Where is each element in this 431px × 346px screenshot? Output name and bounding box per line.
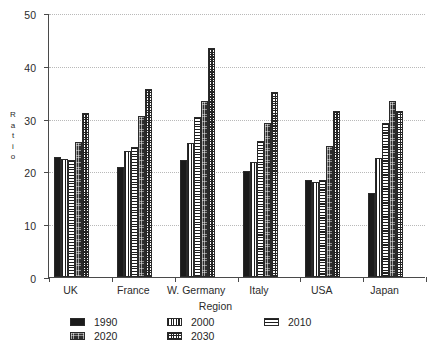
- x-axis-group-label-france: France: [117, 284, 150, 296]
- x-axis-tick: [112, 277, 113, 282]
- y-axis-title: R a t i o: [6, 110, 20, 163]
- plot-inner: 01020304050: [49, 14, 425, 277]
- legend-label: 2020: [94, 330, 117, 342]
- plot-area: 01020304050: [48, 14, 425, 278]
- bar-france-2000: [124, 151, 131, 277]
- legend-item-2030[interactable]: 2030: [167, 330, 264, 342]
- bar-usa-2020: [326, 146, 333, 277]
- bar-usa-1990: [305, 180, 312, 277]
- bar-japan-2000: [375, 158, 382, 277]
- x-axis-group-label-uk: UK: [63, 284, 78, 296]
- bar-uk-2000: [61, 159, 68, 277]
- legend: 1990 2000 2010 2020 2030: [0, 315, 431, 343]
- legend-swatch-icon: [70, 318, 85, 326]
- x-axis-tick: [175, 277, 176, 282]
- gridline: [49, 14, 425, 15]
- legend-row: 1990 2000 2010: [0, 315, 431, 329]
- y-axis-title-letter: a: [6, 121, 20, 132]
- bar-italy-2030: [271, 92, 278, 277]
- y-axis-tick: 40: [44, 67, 49, 68]
- legend-row: 2020 2030: [0, 329, 431, 343]
- legend-label: 2030: [191, 330, 214, 342]
- legend-item-2010[interactable]: 2010: [264, 316, 361, 328]
- legend-item-1990[interactable]: 1990: [70, 316, 167, 328]
- legend-swatch-icon: [167, 318, 182, 326]
- bar-france-2030: [145, 89, 152, 277]
- gridline: [49, 172, 425, 173]
- y-axis-title-letter: t: [6, 131, 20, 142]
- y-axis-title-letter: R: [6, 110, 20, 121]
- gridline: [49, 67, 425, 68]
- bar-japan-2010: [382, 123, 389, 277]
- bar-japan-2030: [396, 111, 403, 277]
- y-axis-tick-label: 40: [24, 62, 36, 74]
- legend-swatch-icon: [264, 318, 279, 326]
- bar-italy-2020: [264, 123, 271, 277]
- y-axis-tick-label: 50: [24, 9, 36, 21]
- bar-w-germany-2020: [201, 101, 208, 277]
- y-axis-title-letter: o: [6, 152, 20, 163]
- x-axis-group-label-italy: Italy: [249, 284, 268, 296]
- x-axis-title: Region: [0, 300, 431, 312]
- bar-italy-2000: [250, 162, 257, 277]
- y-axis-tick-label: 20: [24, 167, 36, 179]
- y-axis-tick-label: 10: [24, 220, 36, 232]
- legend-swatch-icon: [70, 332, 85, 340]
- bar-w-germany-1990: [180, 160, 187, 277]
- legend-item-2000[interactable]: 2000: [167, 316, 264, 328]
- bar-uk-2010: [68, 160, 75, 277]
- y-axis-tick: 20: [44, 172, 49, 173]
- y-axis-tick: 50: [44, 14, 49, 15]
- legend-item-2020[interactable]: 2020: [70, 330, 167, 342]
- bar-usa-2030: [333, 111, 340, 277]
- x-axis-group-label-w-germany: W. Germany: [167, 284, 225, 296]
- bar-uk-1990: [54, 157, 61, 277]
- x-axis-tick: [238, 277, 239, 282]
- bar-w-germany-2000: [187, 143, 194, 277]
- bar-usa-2010: [319, 180, 326, 277]
- bar-w-germany-2030: [208, 48, 215, 277]
- bar-italy-2010: [257, 141, 264, 277]
- x-axis-group-label-usa: USA: [311, 284, 333, 296]
- x-axis-group-label-japan: Japan: [370, 284, 399, 296]
- bar-chart: R a t i o 01020304050 Region 1990 2000 2…: [0, 0, 431, 346]
- bar-japan-1990: [368, 193, 375, 277]
- legend-label: 1990: [94, 316, 117, 328]
- bar-france-2010: [131, 147, 138, 277]
- legend-label: 2010: [288, 316, 311, 328]
- y-axis-tick-label: 0: [30, 273, 36, 285]
- bar-w-germany-2010: [194, 117, 201, 277]
- bar-france-2020: [138, 116, 145, 277]
- x-axis-tick: [426, 277, 427, 282]
- x-axis-tick: [49, 277, 50, 282]
- x-axis-tick: [300, 277, 301, 282]
- y-axis-title-letter: i: [6, 142, 20, 153]
- y-axis-tick-label: 30: [24, 115, 36, 127]
- legend-label: 2000: [191, 316, 214, 328]
- bar-france-1990: [117, 167, 124, 277]
- bar-uk-2030: [82, 113, 89, 277]
- bar-uk-2020: [75, 142, 82, 277]
- gridline: [49, 120, 425, 121]
- bar-japan-2020: [389, 101, 396, 277]
- legend-swatch-icon: [167, 332, 182, 340]
- bar-usa-2000: [312, 182, 319, 277]
- bar-italy-1990: [243, 171, 250, 277]
- y-axis-tick: 10: [44, 225, 49, 226]
- y-axis-tick: 30: [44, 120, 49, 121]
- x-axis-tick: [363, 277, 364, 282]
